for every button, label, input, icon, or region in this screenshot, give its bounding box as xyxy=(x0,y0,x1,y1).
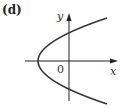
y-axis-label: y xyxy=(56,10,64,23)
origin-label: 0 xyxy=(57,63,64,76)
parabola-diagram: y x 0 xyxy=(0,0,124,108)
y-axis-arrow-icon xyxy=(67,13,72,21)
x-axis-label: x xyxy=(110,65,117,78)
x-axis-arrow-icon xyxy=(110,59,118,64)
